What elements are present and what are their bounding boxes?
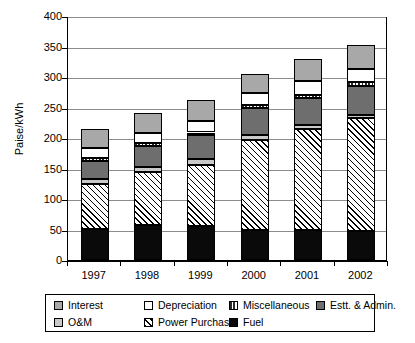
bar-stack-1998 <box>134 16 162 260</box>
x-axis-tick <box>334 261 335 266</box>
legend-label: O&M <box>68 317 92 328</box>
x-axis-tick-label-1999: 1999 <box>175 269 225 281</box>
x-axis-tick <box>120 261 121 266</box>
legend-label: Depreciation <box>158 300 217 311</box>
bar-segment-estt-admin <box>347 86 375 116</box>
x-axis-tick-label-1997: 1997 <box>69 269 119 281</box>
bar-stack-1997 <box>81 16 109 260</box>
bar-segment-estt-admin <box>81 161 109 180</box>
y-axis-tick-label: 250 <box>44 103 62 114</box>
bar-segment-fuel <box>81 229 109 260</box>
legend-item-fuel[interactable]: Fuel <box>229 317 263 328</box>
y-axis-tick-label: 50 <box>50 225 62 236</box>
bar-segment-miscellaneous <box>241 105 269 108</box>
bar-segment-depreciation <box>81 148 109 158</box>
bar-segment-power-purchase <box>241 140 269 230</box>
y-axis-tick-label: 300 <box>44 72 62 83</box>
white-swatch <box>144 301 153 310</box>
y-axis-tick-label: 150 <box>44 164 62 175</box>
vertical-bars-swatch <box>229 301 238 310</box>
y-axis-tick-label: 0 <box>56 255 62 266</box>
diagonal-hatch-swatch <box>144 318 153 327</box>
legend-item-o-m[interactable]: O&M <box>54 317 92 328</box>
y-axis-tick <box>62 48 68 49</box>
bar-segment-power-purchase <box>187 165 215 227</box>
bar-segment-estt-admin <box>187 135 215 159</box>
x-axis-tick-label-2002: 2002 <box>335 269 385 281</box>
bar-segment-power-purchase <box>134 172 162 225</box>
bar-segment-interest <box>81 129 109 147</box>
bar-segment-miscellaneous <box>134 143 162 145</box>
bar-stack-1999 <box>187 16 215 260</box>
legend-item-estt-admin[interactable]: Estt. & Admin. <box>316 300 396 311</box>
bar-segment-miscellaneous <box>347 82 375 85</box>
bar-segment-interest <box>241 74 269 94</box>
bar-segment-depreciation <box>347 69 375 82</box>
bar-segment-estt-admin <box>294 98 322 125</box>
bar-segment-fuel <box>187 226 215 260</box>
bar-segment-depreciation <box>241 93 269 105</box>
y-axis-tick <box>62 170 68 171</box>
legend-item-power-purchase[interactable]: Power Purchase <box>144 317 235 328</box>
bar-segment-estt-admin <box>134 146 162 167</box>
x-axis-tick <box>387 261 388 266</box>
bar-segment-depreciation <box>187 121 215 133</box>
legend-item-miscellaneous[interactable]: Miscellaneous <box>229 300 310 311</box>
y-axis-tick <box>62 200 68 201</box>
bar-segment-depreciation <box>294 81 322 95</box>
bar-segment-interest <box>134 113 162 133</box>
solid-black-swatch <box>229 318 238 327</box>
bar-segment-miscellaneous <box>187 133 215 135</box>
x-axis-tick-label-2001: 2001 <box>282 269 332 281</box>
legend-label: Miscellaneous <box>243 300 310 311</box>
bar-segment-miscellaneous <box>294 95 322 98</box>
bar-segment-fuel <box>347 231 375 260</box>
bar-segment-o-m <box>294 125 322 129</box>
bar-segment-power-purchase <box>81 184 109 229</box>
bar-segment-o-m <box>81 179 109 184</box>
y-axis-tick-label: 100 <box>44 194 62 205</box>
bar-segment-interest <box>294 59 322 80</box>
bar-segment-power-purchase <box>347 118 375 231</box>
y-axis-tick <box>62 109 68 110</box>
x-axis-tick-label-2000: 2000 <box>229 269 279 281</box>
chart-legend: InterestDepreciationMiscellaneousEstt. &… <box>45 294 375 332</box>
legend-label: Power Purchase <box>158 317 235 328</box>
bar-segment-depreciation <box>134 133 162 143</box>
y-axis-tick-label: 400 <box>44 11 62 22</box>
bar-segment-fuel <box>134 225 162 260</box>
y-axis-tick-label: 350 <box>44 42 62 53</box>
y-axis-title: Paise/kWh <box>13 84 25 174</box>
dark-gray-swatch <box>316 301 325 310</box>
plot-area <box>67 17 387 261</box>
bar-segment-interest <box>187 100 215 121</box>
x-axis-tick <box>280 261 281 266</box>
y-axis-tick <box>62 139 68 140</box>
y-axis-tick <box>62 78 68 79</box>
y-axis-tick-label: 200 <box>44 133 62 144</box>
bar-segment-o-m <box>134 167 162 172</box>
bar-segment-fuel <box>294 230 322 260</box>
light-gray-swatch <box>54 318 63 327</box>
stacked-bar-chart-figure: Paise/kWh 050100150200250300350400 19971… <box>0 0 415 343</box>
bar-segment-o-m <box>347 115 375 117</box>
x-axis-tick <box>67 261 68 266</box>
bar-segment-interest <box>347 45 375 69</box>
bar-segment-estt-admin <box>241 108 269 135</box>
x-axis-tick <box>227 261 228 266</box>
bar-segment-miscellaneous <box>81 158 109 161</box>
legend-item-interest[interactable]: Interest <box>54 300 103 311</box>
bar-stack-2000 <box>241 16 269 260</box>
bar-segment-o-m <box>187 159 215 164</box>
legend-label: Interest <box>68 300 103 311</box>
x-axis-tick <box>174 261 175 266</box>
legend-item-depreciation[interactable]: Depreciation <box>144 300 217 311</box>
bar-segment-fuel <box>241 230 269 260</box>
bars-group <box>68 18 386 260</box>
bar-stack-2002 <box>347 16 375 260</box>
y-axis-tick <box>62 17 68 18</box>
legend-label: Estt. & Admin. <box>330 300 396 311</box>
bar-segment-power-purchase <box>294 129 322 230</box>
legend-label: Fuel <box>243 317 263 328</box>
bar-segment-o-m <box>241 135 269 140</box>
